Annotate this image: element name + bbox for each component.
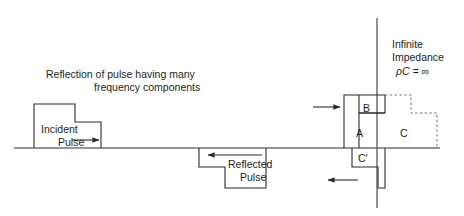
block-cprime-shape bbox=[352, 148, 385, 188]
block-label-c-prime: C′ bbox=[358, 152, 368, 164]
wall-label-line-2: Impedance bbox=[392, 51, 444, 63]
reflected-pulse-label-line-2: Pulse bbox=[240, 171, 266, 183]
block-label-c: C bbox=[400, 127, 408, 139]
incident-pulse-label-line-2: Pulse bbox=[58, 136, 84, 148]
block-label-b: B bbox=[363, 102, 370, 114]
block-c-dashed-shape bbox=[385, 95, 437, 148]
diagram-canvas: Reflection of pulse having many frequenc… bbox=[0, 0, 464, 216]
block-label-a: A bbox=[356, 127, 363, 139]
figure-title-line-2: frequency components bbox=[94, 81, 200, 93]
wave-reflection-diagram bbox=[0, 0, 464, 216]
reflected-pulse-label-line-1: Reflected bbox=[228, 158, 272, 170]
figure-title-line-1: Reflection of pulse having many bbox=[46, 68, 195, 80]
incident-pulse-label-line-1: Incident bbox=[41, 123, 78, 135]
wall-impedance-formula: ρC = ∞ bbox=[396, 65, 429, 77]
wall-label-line-1: Infinite bbox=[392, 38, 423, 50]
